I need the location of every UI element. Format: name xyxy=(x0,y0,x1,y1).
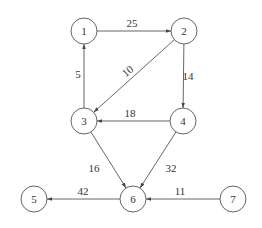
edge-weight-label: 32 xyxy=(166,162,177,174)
node-label: 4 xyxy=(180,115,186,127)
node-4: 4 xyxy=(170,108,196,134)
edge-4-to-3: 18 xyxy=(97,107,170,121)
node-2: 2 xyxy=(171,18,197,44)
edge-arrow xyxy=(94,40,175,113)
edge-weight-label: 5 xyxy=(75,68,81,80)
node-label: 6 xyxy=(130,193,136,205)
edge-6-to-5: 42 xyxy=(47,185,120,199)
edge-weight-label: 11 xyxy=(175,185,186,197)
node-6: 6 xyxy=(120,186,146,212)
node-label: 2 xyxy=(181,25,187,37)
node-label: 1 xyxy=(81,25,87,37)
edge-weight-label: 16 xyxy=(89,162,101,174)
graph-svg: 25510141816324211 1234567 xyxy=(0,0,262,228)
node-5: 5 xyxy=(21,186,47,212)
edge-arrow xyxy=(140,132,176,188)
node-7: 7 xyxy=(220,186,246,212)
edge-4-to-6: 32 xyxy=(140,132,177,188)
edges-layer: 25510141816324211 xyxy=(47,17,220,199)
edge-3-to-6: 16 xyxy=(89,132,127,188)
node-label: 7 xyxy=(230,193,236,205)
node-3: 3 xyxy=(71,108,97,134)
node-label: 5 xyxy=(31,193,37,205)
edge-arrow xyxy=(91,132,126,188)
edge-weight-label: 42 xyxy=(78,185,89,197)
node-1: 1 xyxy=(71,18,97,44)
edge-2-to-4: 14 xyxy=(183,44,195,108)
edge-3-to-1: 5 xyxy=(75,44,84,108)
node-label: 3 xyxy=(81,115,87,127)
edge-weight-label: 18 xyxy=(125,107,137,119)
edge-weight-label: 14 xyxy=(183,70,195,82)
edge-7-to-6: 11 xyxy=(146,185,220,199)
edge-weight-label: 25 xyxy=(127,17,139,29)
edge-2-to-3: 10 xyxy=(94,40,175,113)
graph-diagram: 25510141816324211 1234567 xyxy=(0,0,262,228)
edge-1-to-2: 25 xyxy=(97,17,171,31)
